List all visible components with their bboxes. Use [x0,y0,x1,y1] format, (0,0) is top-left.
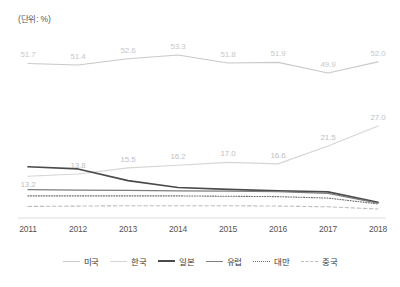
legend-label: 유럽 [227,255,243,267]
data-label: 51.7 [21,50,36,59]
legend-item-1[interactable]: 한국 [110,255,147,267]
series-line-4 [28,196,378,204]
data-label: 13.2 [21,180,36,189]
chart-legend: 미국한국일본유럽대만중국 [0,255,400,267]
chart-plot-area [0,0,400,287]
x-tick-2015: 2015 [219,224,237,234]
legend-label: 미국 [84,255,100,267]
legend-label: 대만 [274,255,290,267]
data-label: 51.8 [221,50,236,59]
series-layer [28,55,378,209]
x-tick-2017: 2017 [319,224,337,234]
legend-item-0[interactable]: 미국 [63,255,100,267]
x-tick-2012: 2012 [69,224,87,234]
line-chart-panel: (단위: %) 51.751.452.653.351.851.949.952.0… [0,0,400,287]
data-label: 15.5 [121,155,136,164]
legend-label: 중국 [322,255,338,267]
data-label: 27.0 [371,113,386,122]
series-line-5 [28,206,378,209]
legend-swatch-icon [253,261,270,262]
data-label: 16.6 [271,151,286,160]
legend-swatch-icon [206,261,223,262]
legend-item-5[interactable]: 중국 [301,255,338,267]
x-tick-2013: 2013 [119,224,137,234]
x-tick-2014: 2014 [169,224,187,234]
legend-label: 한국 [131,255,147,267]
data-label: 53.3 [171,42,186,51]
data-label: 51.9 [271,49,286,58]
data-label: 49.9 [321,60,336,69]
x-axis-tick-labels: 20112012201320142015201620172018 [0,224,400,242]
data-label: 13.8 [71,161,86,170]
series-line-2 [28,167,378,203]
x-tick-2011: 2011 [19,224,36,234]
legend-item-2[interactable]: 일본 [158,255,195,267]
x-tick-2016: 2016 [269,224,287,234]
legend-swatch-icon [63,261,80,262]
data-label: 16.2 [171,152,186,161]
data-label: 52.6 [121,46,136,55]
data-label: 17.0 [221,149,236,158]
data-label: 52.0 [371,49,386,58]
legend-swatch-icon [158,260,175,262]
data-label: 21.5 [321,133,336,142]
legend-item-4[interactable]: 대만 [253,255,290,267]
legend-swatch-icon [301,261,318,262]
legend-item-3[interactable]: 유럽 [206,255,243,267]
x-tick-2018: 2018 [369,224,387,234]
data-label: 51.4 [71,52,86,61]
legend-label: 일본 [179,255,195,267]
legend-swatch-icon [110,261,127,262]
